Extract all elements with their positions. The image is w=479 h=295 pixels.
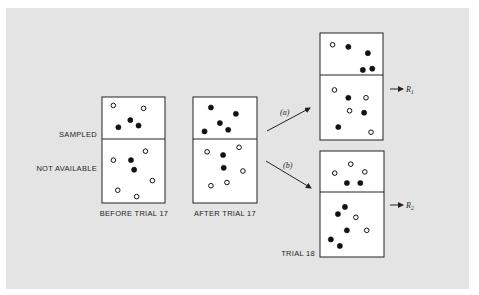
urn-sampling-diagram: SAMPLED NOT AVAILABLE BEFORE TRIAL 17 AF…	[0, 0, 479, 295]
open-ball	[150, 178, 155, 183]
filled-ball	[221, 165, 226, 170]
filled-ball	[342, 204, 347, 209]
filled-ball	[233, 111, 238, 116]
caption-after-trial-17: AFTER TRIAL 17	[194, 209, 256, 218]
box-after-trial-17	[193, 97, 257, 203]
box-frame	[320, 33, 383, 140]
box-trial-18-b	[320, 151, 384, 257]
open-ball	[237, 145, 242, 150]
filled-ball	[344, 228, 349, 233]
open-ball	[205, 150, 210, 155]
filled-ball	[128, 158, 133, 163]
filled-ball	[346, 44, 351, 49]
filled-ball	[226, 127, 231, 132]
filled-ball	[208, 105, 213, 110]
filled-ball	[116, 125, 121, 130]
open-ball	[363, 170, 368, 175]
box-trial-18-a	[320, 33, 383, 140]
filled-ball	[136, 123, 141, 128]
filled-ball	[344, 180, 349, 185]
open-ball	[347, 108, 352, 113]
open-ball	[364, 95, 369, 100]
filled-ball	[202, 129, 207, 134]
filled-ball	[128, 118, 133, 123]
filled-ball	[360, 67, 365, 72]
filled-ball	[358, 180, 363, 185]
open-ball	[332, 88, 337, 93]
box-before-trial-17	[102, 97, 165, 203]
filled-ball	[346, 95, 351, 100]
filled-ball	[328, 237, 333, 242]
open-ball	[115, 188, 120, 193]
open-ball	[141, 106, 146, 111]
open-ball	[225, 180, 230, 185]
filled-ball	[220, 152, 225, 157]
box-frame	[102, 97, 165, 203]
filled-ball	[365, 51, 370, 56]
open-ball	[332, 171, 337, 176]
open-ball	[364, 228, 369, 233]
open-ball	[348, 162, 353, 167]
open-ball	[111, 158, 116, 163]
open-ball	[330, 42, 335, 47]
filled-ball	[370, 66, 375, 71]
row-label-sampled: SAMPLED	[59, 130, 97, 139]
open-ball	[354, 215, 359, 220]
filled-ball	[132, 167, 137, 172]
open-ball	[111, 103, 116, 108]
outcome-r2: R2	[405, 201, 414, 211]
open-ball	[369, 130, 374, 135]
outcome-r1: R1	[405, 85, 414, 95]
branch-label-a: (a)	[280, 108, 290, 117]
row-label-not-available: NOT AVAILABLE	[36, 164, 97, 173]
caption-trial-18: TRIAL 18	[281, 249, 315, 258]
open-ball	[134, 194, 139, 199]
filled-ball	[335, 212, 340, 217]
filled-ball	[217, 120, 222, 125]
filled-ball	[362, 110, 367, 115]
filled-ball	[337, 243, 342, 248]
branch-label-b: (b)	[283, 161, 293, 170]
open-ball	[143, 149, 148, 154]
caption-before-trial-17: BEFORE TRIAL 17	[100, 209, 169, 218]
filled-ball	[336, 124, 341, 129]
open-ball	[209, 183, 214, 188]
open-ball	[241, 169, 246, 174]
box-frame	[193, 97, 257, 203]
